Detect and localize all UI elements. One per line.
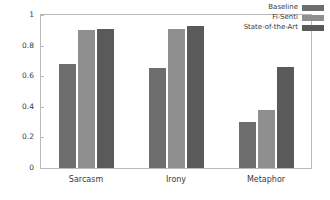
legend-color-swatch: [302, 15, 324, 21]
y-axis-tick-label: 0.2: [22, 131, 34, 142]
bar-group: [149, 15, 204, 168]
bar: [239, 122, 256, 168]
bar: [59, 64, 76, 168]
bar-group: [239, 15, 294, 168]
bar: [277, 67, 294, 168]
bar: [187, 26, 204, 168]
legend-color-swatch: [302, 25, 324, 31]
legend-item: Fi-Senti: [272, 13, 324, 22]
legend-item-label: Baseline: [268, 3, 298, 12]
bars-layer: [41, 15, 311, 168]
x-axis-tick-label: Irony: [166, 175, 186, 184]
x-axis-tick-label: Sarcasm: [69, 175, 103, 184]
x-axis-tick-label: Metaphor: [247, 175, 285, 184]
bar: [97, 29, 114, 168]
legend-item-label: Fi-Senti: [272, 13, 298, 22]
y-axis-tick-label: 0: [29, 162, 34, 173]
bar: [258, 110, 275, 168]
bar: [168, 29, 185, 168]
bar: [149, 68, 166, 168]
legend-item: State-of-the-Art: [244, 23, 324, 32]
bar: [78, 30, 95, 168]
y-axis-tick-label: 0.6: [22, 70, 34, 81]
y-axis-tick-label: 0.8: [22, 40, 34, 51]
legend-item-label: State-of-the-Art: [244, 23, 298, 32]
bar-group: [59, 15, 114, 168]
bar-chart: 00.20.40.60.81 SarcasmIronyMetaphor Base…: [0, 0, 330, 200]
y-axis-tick-label: 1: [29, 9, 34, 20]
y-axis-tick-mark: [40, 168, 44, 169]
y-axis-tick-label: 0.4: [22, 101, 34, 112]
legend-color-swatch: [302, 5, 324, 11]
chart-legend: BaselineFi-SentiState-of-the-Art: [244, 3, 324, 32]
legend-item: Baseline: [268, 3, 324, 12]
